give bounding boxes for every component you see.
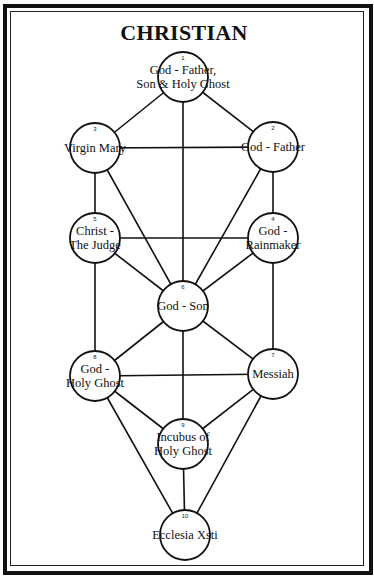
node-label: God - Son xyxy=(157,299,209,313)
node-10: 10Ecclesia Xsti xyxy=(152,510,218,560)
node-label: Messiah xyxy=(252,367,294,381)
node-1: 1God - Father,Son & Holy Ghost xyxy=(136,52,230,102)
node-4: 4God -Rainmaker xyxy=(246,213,302,263)
node-number: 10 xyxy=(182,513,189,519)
node-6: 6God - Son xyxy=(157,281,209,331)
node-9: 9Incubus ofHoly Ghost xyxy=(154,419,213,469)
node-label: Rainmaker xyxy=(246,238,302,252)
node-label: The Judge xyxy=(69,238,121,252)
node-label: God - xyxy=(81,362,110,376)
node-label: Incubus of xyxy=(156,430,210,444)
node-label: God - xyxy=(259,224,288,238)
node-5: 5Christ -The Judge xyxy=(69,213,121,263)
node-label: Son & Holy Ghost xyxy=(136,77,230,91)
node-label: God - Father xyxy=(241,140,306,154)
node-label: Holy Ghost xyxy=(66,376,125,390)
node-label: Virgin Mary xyxy=(64,141,127,155)
tree-of-life-diagram: 1God - Father,Son & Holy Ghost2God - Fat… xyxy=(0,0,374,578)
node-label: Holy Ghost xyxy=(154,444,213,458)
node-label: God - Father, xyxy=(150,63,217,77)
node-7: 7Messiah xyxy=(248,349,298,399)
node-label: Ecclesia Xsti xyxy=(152,528,218,542)
node-label: Christ - xyxy=(76,224,114,238)
nodes-group: 1God - Father,Son & Holy Ghost2God - Fat… xyxy=(64,52,306,560)
